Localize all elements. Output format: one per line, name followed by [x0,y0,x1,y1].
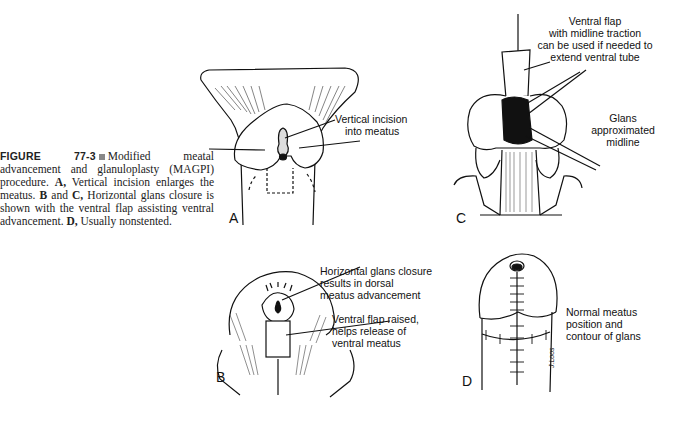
panel-b-bottom-label-line1: Ventral flap raised, [332,313,419,325]
panel-b-illustration: Horizontal glans closure results in dors… [200,255,450,405]
figure-caption: FIGURE 77-3Modified meatal advancement a… [0,150,214,228]
caption-text: Usually nonstented. [78,215,172,227]
panel-b-letter: B [216,369,225,385]
panel-d-illustration: Normal meatus position and contour of gl… [450,250,676,422]
panel-c-top-label-line2: with midline traction [530,27,660,39]
panel-c-top-label-line4: extend ventral tube [530,51,660,63]
artist-signature: J.Loos [546,347,558,368]
panel-c-letter: C [456,210,466,226]
panel-b-bottom-label-line3: ventral meatus [332,337,401,349]
panel-a-letter: A [229,210,238,226]
panel-b-top-label-line1: Horizontal glans closure [320,265,432,277]
caption-bold-D: D, [66,215,77,227]
panel-b-bottom-label-line2: helps release of [332,325,406,337]
caption-separator-square [99,154,105,160]
caption-text: and [47,189,72,201]
panel-c-mid-label-line1: Glans [578,112,668,124]
panel-d-label-line1: Normal meatus [566,306,637,318]
panel-b-top-label-line2: results in dorsal [320,277,394,289]
panel-a-label-line2: into meatus [345,125,399,137]
panel-a-label-line1: Vertical incision [335,113,407,125]
panel-b-top-label-line3: meatus advancement [320,289,420,301]
panel-d-drawing [450,250,676,422]
panel-d-label-line2: position and [566,318,623,330]
panel-c-top-label-line1: Ventral flap [530,15,660,27]
panel-a-illustration: Vertical incision into meatus A [195,40,435,240]
panel-c-mid-label-line2: approximated [578,124,668,136]
figure-number: FIGURE 77-3 [0,150,96,162]
panel-c-top-label-line3: can be used if needed to [520,39,670,51]
caption-bold-A: A, [55,176,66,188]
caption-bold-C: C, [72,189,83,201]
panel-c-illustration: Ventral flap with midline traction can b… [440,0,676,240]
panel-d-letter: D [462,373,472,389]
panel-d-label-line3: contour of glans [566,330,641,342]
panel-c-mid-label-line3: midline [578,136,668,148]
